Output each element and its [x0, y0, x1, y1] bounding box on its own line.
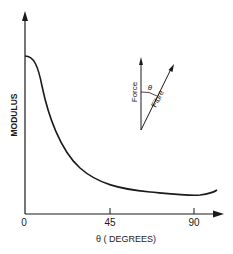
- x-axis-label: θ ( DEGREES): [96, 234, 156, 244]
- y-axis-label: MODULUS: [9, 93, 19, 136]
- x-tick-label-45: 45: [104, 217, 116, 228]
- force-label: Force: [130, 81, 139, 102]
- x-tick-label-0: 0: [21, 217, 27, 228]
- chart: 0 45 90 θ ( DEGREES) MODULUS θ Force Fib…: [0, 0, 233, 254]
- angle-label: θ: [148, 83, 153, 92]
- inset-diagram: θ Force Fibre: [130, 57, 174, 130]
- force-arrow-icon: [139, 57, 143, 65]
- fibre-arrow-icon: [169, 64, 175, 72]
- y-axis-arrow-icon: [22, 11, 28, 21]
- modulus-curve: [25, 56, 217, 195]
- x-tick-label-90: 90: [188, 217, 200, 228]
- x-axis-arrow-icon: [213, 211, 224, 218]
- chart-canvas: 0 45 90 θ ( DEGREES) MODULUS θ Force Fib…: [0, 0, 233, 254]
